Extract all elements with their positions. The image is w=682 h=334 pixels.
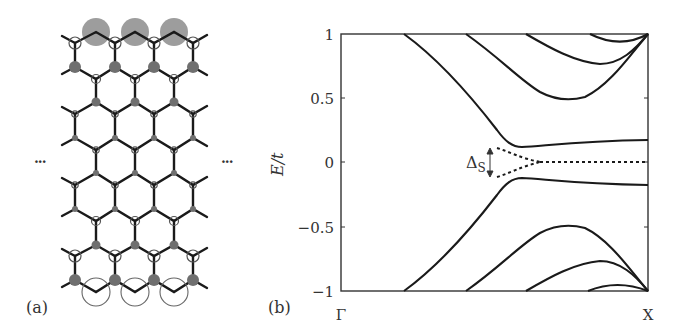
y-tick-minus-1: −1 [312, 283, 334, 301]
lattice-bonds [62, 32, 207, 292]
lattice-panel: ··· ··· (a) [26, 18, 233, 317]
panel-b-label: (b) [268, 298, 291, 317]
edge-state-dashed-bands [497, 148, 648, 177]
conduction-band-3 [526, 34, 648, 64]
valence-band-2 [466, 226, 648, 291]
ellipsis-left: ··· [34, 154, 46, 170]
valence-band-1 [404, 178, 648, 291]
y-tick-0: 0 [324, 154, 334, 172]
conduction-band-1 [404, 34, 648, 147]
y-tick-0.5: 0.5 [310, 90, 334, 108]
x-tick-x: X [643, 306, 654, 324]
valence-band-4 [588, 285, 648, 291]
figure: ··· ··· (a) 1 0.5 0 −0.5 −1 E/t Γ X (b) [0, 0, 682, 334]
y-tick-1: 1 [324, 26, 334, 44]
y-tick-minus-0.5: −0.5 [298, 219, 334, 237]
ellipsis-right: ··· [221, 154, 233, 170]
y-axis-label: E/t [268, 152, 287, 177]
band-structure-chart: 1 0.5 0 −0.5 −1 E/t Γ X (b) [268, 26, 654, 324]
conduction-band-2 [466, 34, 648, 99]
x-tick-gamma: Γ [336, 306, 346, 324]
band-curves [404, 34, 648, 291]
panel-a-label: (a) [26, 298, 48, 317]
conduction-band-4 [590, 34, 648, 42]
gap-arrow-icon [487, 148, 493, 177]
gap-label: ΔS [466, 153, 486, 175]
